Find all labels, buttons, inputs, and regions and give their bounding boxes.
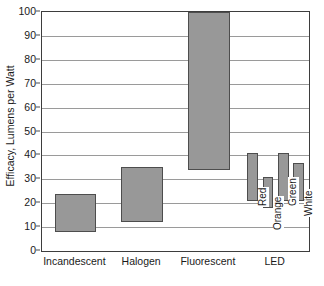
plot-area: RedOrangeGreenWhite bbox=[41, 11, 310, 252]
bar-fluorescent bbox=[188, 12, 229, 170]
gridline-70 bbox=[42, 84, 309, 85]
bar-sub-label-green: Green bbox=[288, 177, 299, 207]
y-axis-title: Efficacy, Lumens per Watt bbox=[0, 0, 20, 252]
efficacy-bar-chart: Efficacy, Lumens per Watt 01020304050607… bbox=[0, 0, 324, 286]
y-tick-label-10: 10 bbox=[24, 220, 36, 232]
x-axis-label-halogen: Halogen bbox=[122, 255, 161, 267]
bar-halogen bbox=[121, 167, 162, 222]
y-tick-label-80: 80 bbox=[24, 53, 36, 65]
y-tick-label-70: 70 bbox=[24, 77, 36, 89]
gridline-80 bbox=[42, 60, 309, 61]
gridline-40 bbox=[42, 155, 309, 156]
y-axis-title-text: Efficacy, Lumens per Watt bbox=[4, 65, 16, 186]
x-axis-label-incandescent: Incandescent bbox=[43, 255, 105, 267]
y-tick-label-90: 90 bbox=[24, 29, 36, 41]
y-tick-mark-20 bbox=[36, 202, 40, 203]
bar-sub-label-red: Red bbox=[258, 187, 269, 207]
gridline-50 bbox=[42, 132, 309, 133]
y-tick-label-30: 30 bbox=[24, 172, 36, 184]
x-axis-label-led: LED bbox=[264, 255, 284, 267]
y-tick-mark-0 bbox=[36, 250, 40, 251]
y-tick-mark-30 bbox=[36, 178, 40, 179]
y-tick-mark-100 bbox=[36, 11, 40, 12]
y-tick-label-100: 100 bbox=[18, 5, 36, 17]
y-tick-label-50: 50 bbox=[24, 125, 36, 137]
y-tick-mark-50 bbox=[36, 130, 40, 131]
gridline-90 bbox=[42, 36, 309, 37]
y-tick-mark-10 bbox=[36, 226, 40, 227]
y-tick-mark-40 bbox=[36, 154, 40, 155]
x-axis-label-fluorescent: Fluorescent bbox=[180, 255, 235, 267]
y-tick-mark-90 bbox=[36, 34, 40, 35]
bar-sub-label-white: White bbox=[304, 189, 315, 217]
y-tick-mark-60 bbox=[36, 106, 40, 107]
y-tick-mark-70 bbox=[36, 82, 40, 83]
y-tick-label-40: 40 bbox=[24, 148, 36, 160]
bar-sub-label-orange: Orange bbox=[273, 196, 284, 231]
y-axis-tick-labels: 0102030405060708090100 bbox=[18, 0, 40, 252]
gridline-60 bbox=[42, 108, 309, 109]
x-axis-category-labels: IncandescentHalogenFluorescentLED bbox=[41, 255, 310, 275]
y-tick-label-20: 20 bbox=[24, 196, 36, 208]
y-tick-mark-80 bbox=[36, 58, 40, 59]
y-tick-label-60: 60 bbox=[24, 101, 36, 113]
bar-incandescent bbox=[55, 194, 96, 232]
